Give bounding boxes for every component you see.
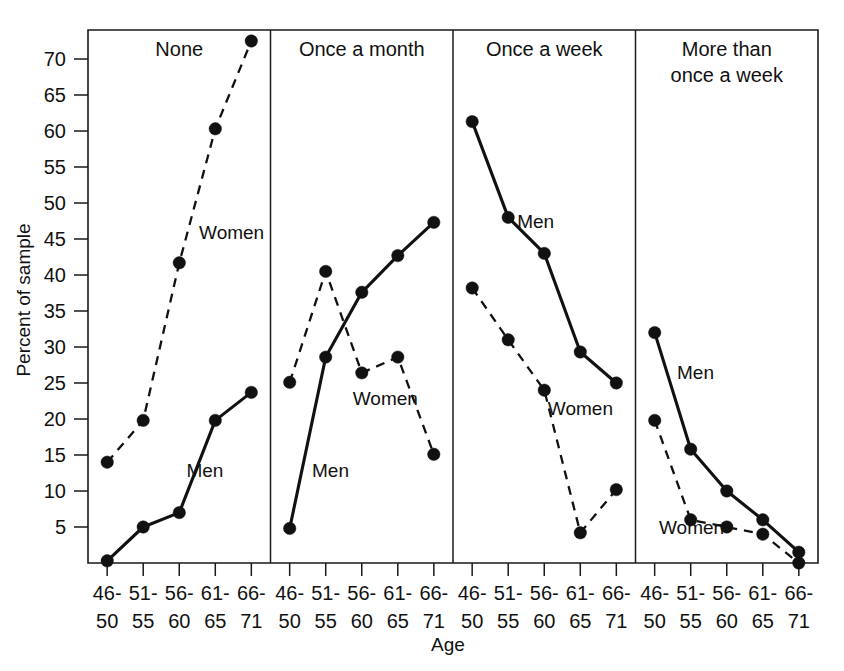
- panels: NoneWomenMenOnce a monthWomenMenOnce a w…: [101, 30, 805, 569]
- x-tick-label-p2-3: 65: [387, 610, 409, 632]
- x-tick-label-p1-0: 46-: [93, 582, 122, 604]
- x-axis-title: Age: [431, 634, 465, 655]
- x-tick-label-p4-0: 50: [644, 610, 666, 632]
- data-point-men-p2-1: [320, 351, 332, 363]
- y-tick-label-25: 25: [44, 372, 66, 394]
- data-point-men-p2-4: [428, 216, 440, 228]
- series-line-women-p1: [107, 41, 251, 462]
- y-tick-label-10: 10: [44, 480, 66, 502]
- data-point-women-p3-4: [610, 483, 622, 495]
- panel-1: NoneWomenMen: [101, 35, 264, 567]
- x-tick-label-p3-0: 46-: [458, 582, 487, 604]
- data-point-men-p1-4: [245, 386, 257, 398]
- chart-figure: 510152025303540455055606570 46-5051-5556…: [0, 0, 844, 671]
- data-point-men-p3-2: [538, 247, 550, 259]
- data-point-women-p2-0: [284, 376, 296, 388]
- data-point-men-p2-0: [284, 522, 296, 534]
- data-point-men-p3-4: [610, 377, 622, 389]
- x-tick-label-p2-3: 61-: [383, 582, 412, 604]
- panel-2: Once a monthWomenMen: [271, 30, 440, 563]
- x-tick-label-p4-2: 60: [716, 610, 738, 632]
- panel-title-1: None: [155, 38, 203, 60]
- data-point-women-p3-0: [466, 282, 478, 294]
- x-axis-ticks: 46-5051-5556-6061-6566-7146-5051-5556-60…: [93, 563, 814, 632]
- panel-title-3: Once a week: [486, 38, 604, 60]
- y-tick-label-40: 40: [44, 264, 66, 286]
- x-tick-label-p4-1: 55: [680, 610, 702, 632]
- x-tick-label-p4-3: 61-: [748, 582, 777, 604]
- data-point-men-p4-2: [721, 485, 733, 497]
- x-tick-label-p3-1: 51-: [494, 582, 523, 604]
- x-tick-label-p3-3: 61-: [566, 582, 595, 604]
- x-tick-label-p1-1: 51-: [129, 582, 158, 604]
- x-tick-label-p2-0: 50: [279, 610, 301, 632]
- data-point-men-p1-2: [173, 506, 185, 518]
- series-label-men-p1: Men: [186, 460, 223, 481]
- x-tick-label-p4-1: 51-: [676, 582, 705, 604]
- x-tick-label-p1-4: 71: [240, 610, 262, 632]
- x-tick-label-p2-0: 46-: [275, 582, 304, 604]
- data-point-men-p1-0: [101, 555, 113, 567]
- y-tick-label-45: 45: [44, 228, 66, 250]
- x-tick-label-p1-2: 60: [168, 610, 190, 632]
- x-tick-label-p2-2: 60: [351, 610, 373, 632]
- x-tick-label-p2-4: 71: [423, 610, 445, 632]
- data-point-women-p4-0: [649, 414, 661, 426]
- x-tick-label-p3-2: 60: [533, 610, 555, 632]
- x-tick-label-p1-1: 55: [132, 610, 154, 632]
- panel-3: Once a weekMenWomen: [453, 30, 623, 563]
- data-point-men-p2-2: [356, 286, 368, 298]
- x-tick-label-p1-4: 66-: [237, 582, 266, 604]
- x-tick-label-p4-4: 66-: [784, 582, 813, 604]
- data-point-women-p2-4: [428, 448, 440, 460]
- multi-panel-line-chart: 510152025303540455055606570 46-5051-5556…: [0, 0, 844, 671]
- series-label-women-p2: Women: [353, 388, 418, 409]
- x-tick-label-p3-4: 71: [605, 610, 627, 632]
- y-tick-label-50: 50: [44, 192, 66, 214]
- data-point-men-p2-3: [392, 249, 404, 261]
- data-point-women-p4-3: [757, 528, 769, 540]
- x-tick-label-p1-0: 50: [96, 610, 118, 632]
- series-label-women-p4: Women: [659, 517, 724, 538]
- data-point-women-p1-3: [209, 123, 221, 135]
- y-axis-ticks: 510152025303540455055606570: [44, 48, 88, 538]
- x-tick-label-p2-1: 51-: [311, 582, 340, 604]
- data-point-women-p2-2: [356, 367, 368, 379]
- data-point-women-p1-2: [173, 257, 185, 269]
- series-label-women-p1: Women: [199, 222, 264, 243]
- data-point-women-p2-3: [392, 351, 404, 363]
- y-tick-label-35: 35: [44, 300, 66, 322]
- data-point-men-p3-1: [502, 211, 514, 223]
- data-point-men-p3-3: [574, 346, 586, 358]
- series-label-men-p3: Men: [517, 211, 554, 232]
- data-point-women-p3-3: [574, 527, 586, 539]
- x-tick-label-p1-3: 61-: [201, 582, 230, 604]
- y-tick-label-55: 55: [44, 156, 66, 178]
- series-label-women-p3: Women: [548, 398, 613, 419]
- data-point-men-p4-0: [649, 326, 661, 338]
- x-tick-label-p3-4: 66-: [602, 582, 631, 604]
- data-point-men-p4-3: [757, 514, 769, 526]
- panel-title-4: More than: [682, 38, 772, 60]
- y-tick-label-65: 65: [44, 84, 66, 106]
- data-point-men-p4-4: [793, 546, 805, 558]
- y-tick-label-30: 30: [44, 336, 66, 358]
- x-tick-label-p3-2: 56-: [530, 582, 559, 604]
- data-point-men-p1-1: [137, 521, 149, 533]
- y-tick-label-70: 70: [44, 48, 66, 70]
- panel-4: More thanonce a weekMenWomen: [636, 30, 806, 569]
- data-point-women-p1-1: [137, 414, 149, 426]
- data-point-women-p4-4: [793, 557, 805, 569]
- series-label-men-p2: Men: [312, 460, 349, 481]
- x-tick-label-p4-3: 65: [752, 610, 774, 632]
- x-tick-label-p3-0: 50: [461, 610, 483, 632]
- x-tick-label-p1-2: 56-: [165, 582, 194, 604]
- y-tick-label-60: 60: [44, 120, 66, 142]
- x-tick-label-p2-4: 66-: [419, 582, 448, 604]
- data-point-men-p3-0: [466, 115, 478, 127]
- x-tick-label-p2-1: 55: [315, 610, 337, 632]
- panel-title-4: once a week: [671, 64, 784, 86]
- x-tick-label-p4-4: 71: [788, 610, 810, 632]
- x-tick-label-p2-2: 56-: [347, 582, 376, 604]
- x-tick-label-p4-2: 56-: [712, 582, 741, 604]
